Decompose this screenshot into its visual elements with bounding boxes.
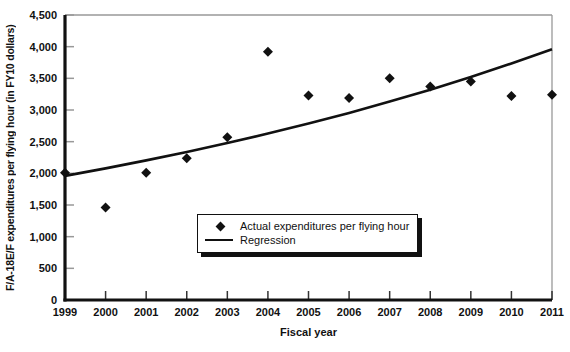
x-tick-label: 2008 [418, 306, 442, 318]
x-tick-label: 2001 [134, 306, 158, 318]
x-tick-label: 2011 [540, 306, 564, 318]
y-tick-label: 2,000 [29, 167, 57, 179]
regression-line-icon [205, 233, 235, 247]
y-tick-label: 1,000 [29, 231, 57, 243]
data-point-diamond [182, 153, 192, 163]
data-point-diamond [344, 93, 354, 103]
x-tick-label: 2010 [499, 306, 523, 318]
x-tick-label: 2006 [337, 306, 361, 318]
chart-figure: 05001,0001,5002,0002,5003,0003,5004,0004… [0, 0, 570, 352]
x-tick-label: 2002 [175, 306, 199, 318]
y-axis-title: F/A-18E/F expenditures per flying hour (… [2, 13, 18, 303]
y-tick-label: 1,500 [29, 199, 57, 211]
x-tick-label: 1999 [53, 306, 77, 318]
legend-label-actual: Actual expenditures per flying hour [240, 220, 409, 232]
y-tick-label: 0 [51, 294, 57, 306]
diamond-marker-icon [205, 219, 235, 233]
plot-area: 05001,0001,5002,0002,5003,0003,5004,0004… [0, 0, 570, 352]
data-point-diamond [222, 132, 232, 142]
x-axis-title: Fiscal year [65, 326, 552, 338]
y-tick-label: 2,500 [29, 136, 57, 148]
data-point-diamond [547, 90, 557, 100]
x-tick-label: 2009 [459, 306, 483, 318]
legend-label-regression: Regression [240, 234, 296, 246]
data-point-diamond [101, 203, 111, 213]
x-tick-label: 2007 [377, 306, 401, 318]
x-tick-label: 2003 [215, 306, 239, 318]
data-point-diamond [141, 168, 151, 178]
x-tick-label: 2004 [256, 306, 281, 318]
data-point-diamond [263, 47, 273, 57]
x-tick-label: 2005 [296, 306, 320, 318]
y-tick-label: 500 [39, 262, 57, 274]
y-tick-label: 4,000 [29, 41, 57, 53]
x-tick-label: 2000 [93, 306, 117, 318]
y-tick-label: 4,500 [29, 9, 57, 21]
legend: Actual expenditures per flying hour Regr… [197, 214, 418, 253]
data-point-diamond [304, 90, 314, 100]
data-point-diamond [506, 91, 516, 101]
regression-line [65, 49, 552, 176]
legend-item-regression: Regression [205, 233, 411, 247]
data-point-diamond [385, 73, 395, 83]
legend-item-actual: Actual expenditures per flying hour [205, 219, 411, 233]
y-tick-label: 3,500 [29, 72, 57, 84]
y-tick-label: 3,000 [29, 104, 57, 116]
